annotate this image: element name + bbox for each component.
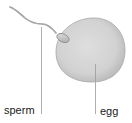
sperm-cell <box>10 7 71 44</box>
egg-cell <box>56 18 125 82</box>
sperm-egg-diagram: sperm egg <box>0 0 132 123</box>
sperm-label: sperm <box>4 105 35 116</box>
egg-label: egg <box>100 106 118 117</box>
